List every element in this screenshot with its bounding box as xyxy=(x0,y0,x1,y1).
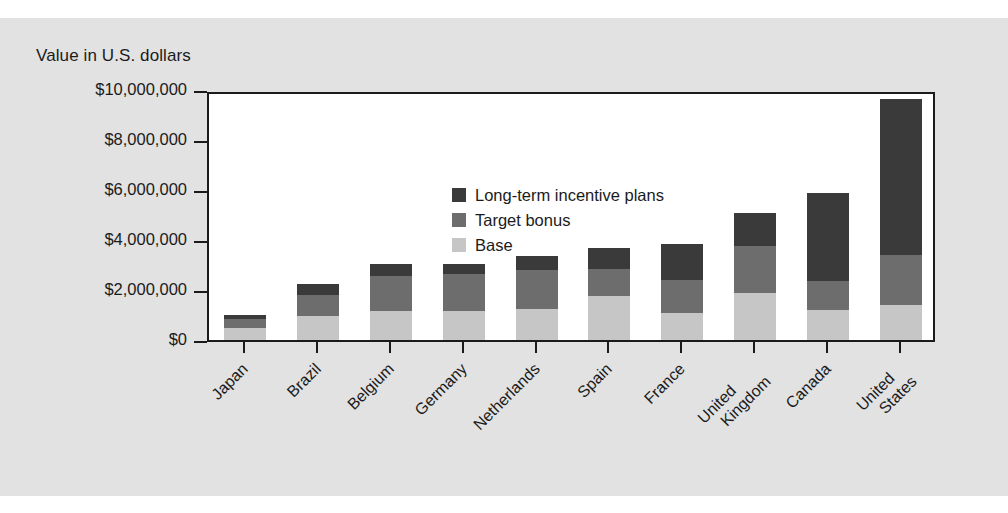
x-tick-label-belgium: Belgium xyxy=(344,360,398,414)
x-tick-mark xyxy=(607,342,609,353)
plot-area: Long-term incentive plansTarget bonusBas… xyxy=(207,92,935,342)
x-tick-label-germany: Germany xyxy=(411,360,470,419)
legend-label: Base xyxy=(475,236,513,255)
x-tick-mark xyxy=(680,342,682,353)
x-tick-label-spain: Spain xyxy=(574,360,616,402)
x-label-line: Brazil xyxy=(284,360,325,401)
bar-segment-lti xyxy=(734,213,776,247)
bar-canada[interactable] xyxy=(807,193,849,341)
y-tick-label: $8,000,000 xyxy=(104,130,187,149)
y-tick-mark xyxy=(194,241,207,243)
x-tick-mark xyxy=(243,342,245,353)
bar-segment-base xyxy=(734,293,776,341)
bar-germany[interactable] xyxy=(443,264,485,340)
bar-segment-lti xyxy=(661,244,703,280)
bar-united-kingdom[interactable] xyxy=(734,213,776,341)
legend-swatch-icon xyxy=(452,188,466,202)
x-tick-label-netherlands: Netherlands xyxy=(470,360,544,434)
y-axis-title: Value in U.S. dollars xyxy=(36,46,191,66)
x-tick-mark xyxy=(535,342,537,353)
bar-segment-bonus xyxy=(516,270,558,309)
chart-page: Value in U.S. dollars $0$2,000,000$4,000… xyxy=(0,0,1008,513)
bar-segment-base xyxy=(880,305,922,340)
bar-brazil[interactable] xyxy=(297,284,339,340)
x-tick-mark xyxy=(753,342,755,353)
y-tick-mark xyxy=(194,341,207,343)
bar-segment-bonus xyxy=(661,280,703,313)
x-label-line: Canada xyxy=(782,360,834,412)
bar-segment-base xyxy=(297,316,339,340)
legend-item[interactable]: Target bonus xyxy=(452,209,664,231)
x-tick-label-france: France xyxy=(641,360,689,408)
legend-item[interactable]: Base xyxy=(452,234,664,256)
bar-segment-bonus xyxy=(370,276,412,311)
legend-item[interactable]: Long-term incentive plans xyxy=(452,184,664,206)
bar-spain[interactable] xyxy=(588,248,630,341)
bar-segment-lti xyxy=(370,264,412,277)
x-label-line: Belgium xyxy=(344,360,398,414)
x-tick-mark xyxy=(462,342,464,353)
legend-label: Target bonus xyxy=(475,211,570,230)
bar-segment-base xyxy=(807,310,849,340)
bar-segment-base xyxy=(661,313,703,341)
bar-segment-bonus xyxy=(224,319,266,328)
x-label-line: Netherlands xyxy=(470,360,544,434)
bar-segment-bonus xyxy=(297,295,339,316)
stacked-bar-chart: Value in U.S. dollars $0$2,000,000$4,000… xyxy=(0,18,1008,496)
y-tick-label: $10,000,000 xyxy=(95,80,187,99)
y-tick-label: $0 xyxy=(169,330,187,349)
bar-segment-bonus xyxy=(443,274,485,312)
bar-belgium[interactable] xyxy=(370,264,412,340)
bar-netherlands[interactable] xyxy=(516,256,558,340)
x-tick-label-brazil: Brazil xyxy=(284,360,325,401)
x-tick-label-united-kingdom: UnitedKingdom xyxy=(694,360,774,440)
x-label-line: Japan xyxy=(209,360,252,403)
x-tick-mark xyxy=(389,342,391,353)
bar-segment-lti xyxy=(297,284,339,295)
x-label-line: France xyxy=(641,360,689,408)
bar-segment-base xyxy=(224,328,266,341)
bar-united-states[interactable] xyxy=(880,99,922,340)
x-tick-label-japan: Japan xyxy=(209,360,252,403)
bar-segment-lti xyxy=(443,264,485,274)
bar-segment-lti xyxy=(880,99,922,255)
bar-segment-base xyxy=(588,296,630,340)
bar-france[interactable] xyxy=(661,244,703,340)
x-label-line: Spain xyxy=(574,360,616,402)
bar-japan[interactable] xyxy=(224,315,266,340)
legend-label: Long-term incentive plans xyxy=(475,186,664,205)
x-tick-label-united-states: UnitedStates xyxy=(853,360,920,427)
x-tick-mark xyxy=(899,342,901,353)
y-tick-label: $4,000,000 xyxy=(104,230,187,249)
y-tick-mark xyxy=(194,291,207,293)
bar-segment-bonus xyxy=(807,281,849,310)
x-tick-mark xyxy=(316,342,318,353)
x-label-line: Germany xyxy=(411,360,470,419)
x-tick-mark xyxy=(826,342,828,353)
bar-segment-bonus xyxy=(880,255,922,305)
legend-swatch-icon xyxy=(452,238,466,252)
bar-segment-bonus xyxy=(734,246,776,292)
chart-legend: Long-term incentive plansTarget bonusBas… xyxy=(452,184,664,259)
bar-segment-base xyxy=(516,309,558,340)
bar-segment-bonus xyxy=(588,269,630,297)
y-tick-mark xyxy=(194,141,207,143)
y-tick-mark xyxy=(194,191,207,193)
bar-segment-lti xyxy=(807,193,849,282)
legend-swatch-icon xyxy=(452,213,466,227)
y-tick-label: $6,000,000 xyxy=(104,180,187,199)
bar-segment-base xyxy=(443,311,485,340)
y-tick-label: $2,000,000 xyxy=(104,280,187,299)
y-tick-mark xyxy=(194,91,207,93)
x-tick-label-canada: Canada xyxy=(782,360,834,412)
bar-segment-base xyxy=(370,311,412,340)
